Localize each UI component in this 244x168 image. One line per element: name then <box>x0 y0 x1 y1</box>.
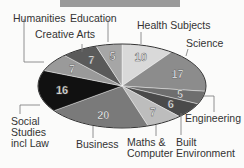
label-maths-2: Computer <box>127 148 173 159</box>
leader-line <box>24 19 44 62</box>
slice-value: 7 <box>69 63 75 75</box>
label-built-2: Environment <box>176 148 235 159</box>
slice-value: 7 <box>88 54 94 66</box>
leader-line <box>20 105 40 114</box>
label-business: Business <box>76 139 119 150</box>
label-engineering: Engineering <box>185 113 241 124</box>
label-social-3: incl Law <box>11 138 49 149</box>
label-education: Education <box>70 13 117 24</box>
label-science: Science <box>186 38 223 49</box>
slice-value: 20 <box>97 109 109 121</box>
slice-value: 17 <box>171 68 183 80</box>
leader-line <box>186 49 188 56</box>
slice-value: 5 <box>177 88 183 100</box>
slice-value: 7 <box>150 106 156 118</box>
slice-value: 5 <box>109 50 115 62</box>
label-humanities: Humanities <box>13 13 66 24</box>
leader-line <box>204 96 214 112</box>
slice-value: 10 <box>135 51 147 63</box>
slice-value: 6 <box>168 98 174 110</box>
label-creative-arts: Creative Arts <box>35 29 95 40</box>
slice-value: 16 <box>56 84 68 96</box>
label-health-subjects: Health Subjects <box>137 20 211 31</box>
